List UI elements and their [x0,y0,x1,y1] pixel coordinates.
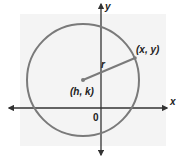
x-axis-label: x [169,96,176,107]
center-point [81,78,85,82]
y-axis-label: y [104,1,111,12]
point-label: (x, y) [136,44,160,55]
circumference-point [133,56,137,60]
origin-label: 0 [93,112,99,123]
circle-diagram: y x 0 r (h, k) (x, y) [0,0,176,158]
center-label: (h, k) [70,86,95,97]
background-shade [20,14,166,146]
